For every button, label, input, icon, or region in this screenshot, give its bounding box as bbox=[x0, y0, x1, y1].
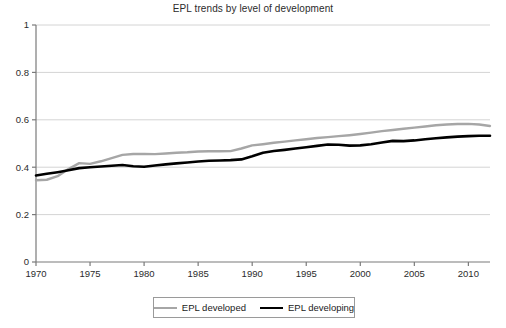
svg-text:1995: 1995 bbox=[296, 268, 317, 279]
legend-item-epl-developed[interactable]: EPL developed bbox=[154, 302, 246, 313]
svg-text:2005: 2005 bbox=[404, 268, 425, 279]
svg-text:2010: 2010 bbox=[458, 268, 479, 279]
x-axis bbox=[36, 262, 490, 266]
svg-text:1980: 1980 bbox=[134, 268, 155, 279]
svg-text:0.6: 0.6 bbox=[16, 114, 29, 125]
data-series bbox=[36, 124, 490, 180]
legend-item-epl-developing[interactable]: EPL developing bbox=[260, 302, 354, 313]
svg-text:1970: 1970 bbox=[25, 268, 46, 279]
gridlines bbox=[36, 25, 490, 215]
svg-text:2000: 2000 bbox=[350, 268, 371, 279]
y-axis bbox=[32, 25, 36, 262]
svg-text:0.8: 0.8 bbox=[16, 67, 29, 78]
chart-legend: EPL developed EPL developing bbox=[153, 297, 355, 318]
svg-text:0.4: 0.4 bbox=[16, 162, 29, 173]
svg-text:0: 0 bbox=[24, 256, 29, 267]
chart-container: EPL trends by level of development 00.20… bbox=[0, 0, 506, 328]
legend-label-epl-developed: EPL developed bbox=[182, 302, 246, 313]
legend-line-swatch-icon bbox=[154, 307, 177, 309]
svg-text:1985: 1985 bbox=[188, 268, 209, 279]
svg-text:1975: 1975 bbox=[79, 268, 100, 279]
y-tick-labels: 00.20.40.60.81 bbox=[16, 19, 29, 267]
svg-text:1: 1 bbox=[24, 19, 29, 30]
legend-label-epl-developing: EPL developing bbox=[288, 302, 354, 313]
svg-text:1990: 1990 bbox=[242, 268, 263, 279]
line-chart-plot: 00.20.40.60.81 1970197519801985199019952… bbox=[0, 0, 506, 328]
x-tick-labels: 197019751980198519901995200020052010 bbox=[25, 268, 479, 279]
svg-text:0.2: 0.2 bbox=[16, 209, 29, 220]
legend-line-swatch-icon bbox=[260, 307, 283, 309]
